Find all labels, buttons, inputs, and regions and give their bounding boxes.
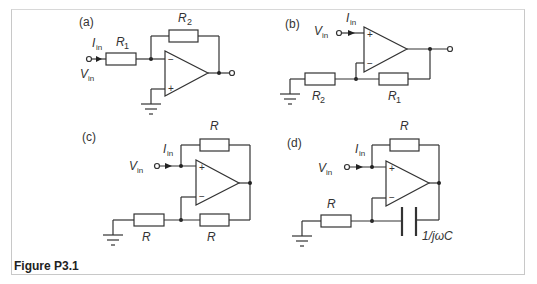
panel-b-r2-resistor xyxy=(305,73,335,85)
panel-b-iin-sub: in xyxy=(350,18,356,27)
circuit-diagrams: (a) R 2 R 1 I in V in − + xyxy=(0,0,537,284)
panel-a-ground-icon xyxy=(141,104,161,114)
panel-d-capacitor xyxy=(402,207,416,236)
panel-a: (a) R 2 R 1 I in V in − + xyxy=(79,11,235,114)
panel-b-vin-sub: in xyxy=(322,31,328,40)
panel-c-rground-resistor xyxy=(134,214,164,226)
panel-b-noninverting-input: + xyxy=(367,29,373,40)
panel-d-rground-name: R xyxy=(327,197,336,211)
panel-b: (b) I in V in + − R 2 xyxy=(280,11,453,105)
panel-a-vin-sub: in xyxy=(88,74,94,83)
panel-a-label: (a) xyxy=(79,15,94,29)
panel-a-r2-sub: 2 xyxy=(187,17,192,27)
panel-a-noninverting-input: + xyxy=(168,83,174,94)
panel-b-r1-sub: 1 xyxy=(396,95,401,105)
panel-c-rtop-resistor xyxy=(200,139,229,151)
panel-c-inverting-input: − xyxy=(199,191,205,202)
panel-d-ground-icon xyxy=(292,236,312,246)
panel-a-r2-name: R xyxy=(178,11,187,25)
panel-c-ground-icon xyxy=(103,235,123,245)
panel-c-rbottom-resistor xyxy=(200,214,229,226)
panel-b-current-arrow-icon xyxy=(348,30,355,36)
panel-d: (d) R I in V in + − R xyxy=(287,119,453,246)
panel-a-r1-sub: 1 xyxy=(124,41,129,51)
panel-c-label: (c) xyxy=(82,130,96,144)
panel-a-r2-resistor xyxy=(169,30,198,42)
panel-d-input-terminal xyxy=(345,165,350,170)
panel-c-rground-name: R xyxy=(142,230,151,244)
panel-b-r1-resistor xyxy=(379,73,408,85)
panel-c-rbottom-name: R xyxy=(207,230,216,244)
panel-a-output-terminal xyxy=(230,71,235,76)
panel-d-rtop-name: R xyxy=(400,119,409,133)
panel-a-inverting-input: − xyxy=(168,54,174,65)
figure-caption: Figure P3.1 xyxy=(14,259,79,273)
panel-b-inverting-input: − xyxy=(367,58,373,69)
panel-c-rtop-name: R xyxy=(210,119,219,133)
panel-d-inverting-input: − xyxy=(389,192,395,203)
panel-d-vin-sub: in xyxy=(326,168,332,177)
panel-d-label: (d) xyxy=(287,136,302,150)
panel-a-input-terminal xyxy=(87,57,92,62)
panel-b-label: (b) xyxy=(285,17,300,31)
panel-d-rtop-resistor xyxy=(390,139,419,151)
panel-d-noninverting-input: + xyxy=(389,163,395,174)
panel-a-current-arrow-icon xyxy=(96,56,102,62)
panel-c-noninverting-input: + xyxy=(199,162,205,173)
panel-d-iin-sub: in xyxy=(359,149,365,158)
panel-c-vin-sub: in xyxy=(137,166,143,175)
panel-c-current-arrow-icon xyxy=(165,163,172,169)
panel-d-capacitor-impedance: 1/jωC xyxy=(422,229,453,243)
panel-b-ground-icon xyxy=(280,94,300,104)
panel-a-r1-resistor xyxy=(106,53,136,65)
panel-b-output-terminal xyxy=(448,47,453,52)
panel-d-current-arrow-icon xyxy=(356,164,363,170)
panel-b-r2-sub: 2 xyxy=(320,95,325,105)
panel-d-rground-resistor xyxy=(321,215,351,227)
panel-c-input-terminal xyxy=(155,164,160,169)
panel-a-iin-sub: in xyxy=(96,43,102,52)
panel-c: (c) R I in V in + − xyxy=(82,119,252,245)
panel-b-input-terminal xyxy=(337,31,342,36)
panel-c-iin-sub: in xyxy=(167,149,173,158)
